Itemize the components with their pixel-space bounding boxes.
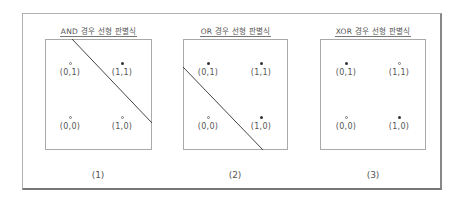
- filled-dot-icon: [260, 116, 263, 119]
- hollow-dot-icon: [207, 116, 210, 119]
- point-0-0: (0,0): [55, 116, 85, 131]
- decision-boundary-line: [45, 39, 152, 150]
- point-0-1: (0,1): [331, 62, 361, 77]
- filled-dot-icon: [398, 116, 401, 119]
- point-0-0: (0,0): [331, 116, 361, 131]
- point-0-1: (0,1): [193, 62, 223, 77]
- filled-dot-icon: [260, 62, 263, 65]
- panel-title: XOR 경우 선형 판별식: [300, 25, 446, 36]
- hollow-dot-icon: [398, 62, 401, 65]
- decision-boundary-line: [183, 39, 288, 150]
- panel-and: AND 경우 선형 판별식 (0,1) (1,1) (0,0) (1,0): [45, 39, 152, 150]
- point-1-1: (1,1): [107, 62, 137, 77]
- point-0-0: (0,0): [193, 116, 223, 131]
- point-1-1: (1,1): [384, 62, 414, 77]
- filled-dot-icon: [207, 62, 210, 65]
- plot-box: [320, 39, 426, 150]
- point-1-0: (1,0): [107, 116, 137, 131]
- caption-3: (3): [367, 170, 380, 180]
- hollow-dot-icon: [121, 116, 124, 119]
- hollow-dot-icon: [69, 116, 72, 119]
- point-1-0: (1,0): [384, 116, 414, 131]
- panel-or: OR 경우 선형 판별식 (0,1) (1,1) (0,0) (1,0): [183, 39, 288, 150]
- panel-title: OR 경우 선형 판별식: [163, 25, 308, 36]
- filled-dot-icon: [345, 62, 348, 65]
- filled-dot-icon: [121, 62, 124, 65]
- panel-xor: XOR 경우 선형 판별식 (0,1) (1,1) (0,0) (1,0): [320, 39, 426, 150]
- point-1-1: (1,1): [246, 62, 276, 77]
- panel-title: AND 경우 선형 판별식: [25, 25, 172, 36]
- point-0-1: (0,1): [55, 62, 85, 77]
- caption-2: (2): [229, 170, 242, 180]
- caption-1: (1): [92, 170, 105, 180]
- hollow-dot-icon: [69, 62, 72, 65]
- point-1-0: (1,0): [246, 116, 276, 131]
- hollow-dot-icon: [345, 116, 348, 119]
